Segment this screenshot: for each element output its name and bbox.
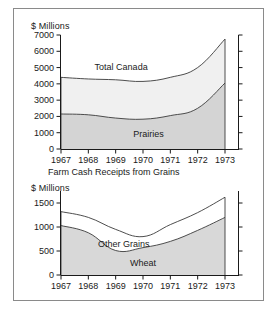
series-label-prairies: Prairies — [133, 129, 164, 139]
figure-caption: Farm Cash Receipts from Grains — [48, 167, 180, 177]
series-label-total-canada: Total Canada — [95, 62, 148, 72]
series-label-other-grains: Other Grains — [98, 239, 150, 249]
figure-root: $ Millions 01000200030004000500060007000… — [0, 0, 277, 314]
series-label-wheat: Wheat — [130, 258, 156, 268]
chart-panel-upper: $ Millions 01000200030004000500060007000… — [13, 8, 264, 173]
chart-panel-lower: $ Millions 050010001500 1967196819691970… — [13, 178, 264, 301]
upper-plot-area — [13, 8, 264, 173]
